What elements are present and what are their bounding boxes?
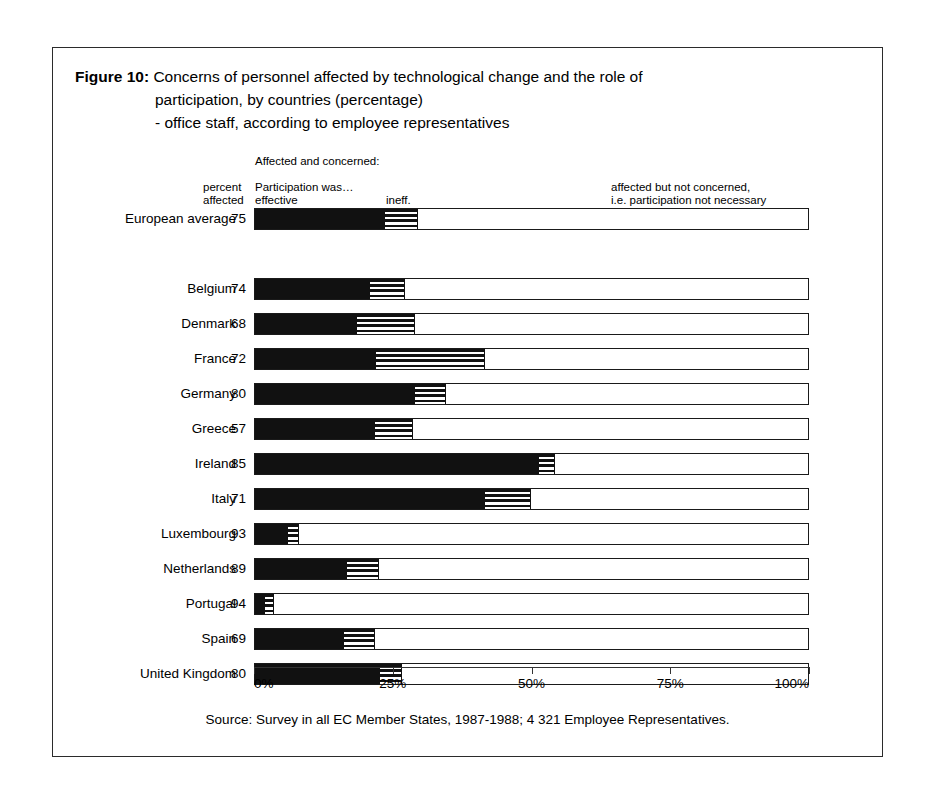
chart-row: Portugal94 bbox=[53, 593, 882, 615]
row-percent-affected: 75 bbox=[218, 211, 246, 226]
segment-not-concerned bbox=[413, 419, 808, 439]
x-axis-tick bbox=[254, 667, 255, 674]
segment-not-concerned bbox=[555, 454, 808, 474]
segment-ineffective bbox=[288, 524, 299, 544]
segment-ineffective bbox=[347, 559, 379, 579]
row-percent-affected: 94 bbox=[218, 596, 246, 611]
row-percent-affected: 72 bbox=[218, 351, 246, 366]
segment-not-concerned bbox=[446, 384, 808, 404]
stacked-bar bbox=[254, 208, 809, 230]
x-axis-tick bbox=[393, 667, 394, 674]
stacked-bar bbox=[254, 383, 809, 405]
segment-ineffective bbox=[265, 594, 274, 614]
segment-ineffective bbox=[376, 349, 485, 369]
segment-effective bbox=[255, 489, 485, 509]
segment-ineffective bbox=[370, 279, 405, 299]
stacked-bar bbox=[254, 418, 809, 440]
chart-row: Italy71 bbox=[53, 488, 882, 510]
row-percent-affected: 69 bbox=[218, 631, 246, 646]
segment-effective bbox=[255, 349, 376, 369]
segment-not-concerned bbox=[405, 279, 808, 299]
segment-effective bbox=[255, 454, 539, 474]
row-percent-affected: 93 bbox=[218, 526, 246, 541]
x-axis-tick-label: 75% bbox=[657, 676, 684, 691]
x-axis-tick-label: 0% bbox=[254, 676, 274, 691]
segment-not-concerned bbox=[415, 314, 808, 334]
stacked-bar bbox=[254, 628, 809, 650]
stacked-bar bbox=[254, 488, 809, 510]
x-axis-tick bbox=[809, 667, 810, 674]
segment-effective bbox=[255, 419, 375, 439]
segment-not-concerned bbox=[485, 349, 808, 369]
chart-row: European average75 bbox=[53, 208, 882, 230]
chart-row: Belgium74 bbox=[53, 278, 882, 300]
x-axis-tick-label: 25% bbox=[379, 676, 406, 691]
row-percent-affected: 74 bbox=[218, 281, 246, 296]
row-percent-affected: 89 bbox=[218, 561, 246, 576]
chart-row: Netherlands89 bbox=[53, 558, 882, 580]
segment-not-concerned bbox=[375, 629, 808, 649]
segment-effective bbox=[255, 629, 344, 649]
stacked-bar bbox=[254, 313, 809, 335]
x-axis-tick-label: 100% bbox=[774, 676, 809, 691]
chart-row: Germany80 bbox=[53, 383, 882, 405]
chart-row: Ireland85 bbox=[53, 453, 882, 475]
chart-row: Denmark68 bbox=[53, 313, 882, 335]
segment-effective bbox=[255, 524, 288, 544]
x-axis-tick bbox=[532, 667, 533, 674]
stacked-bar bbox=[254, 453, 809, 475]
segment-ineffective bbox=[344, 629, 375, 649]
x-axis-tick-label: 50% bbox=[518, 676, 545, 691]
stacked-bar bbox=[254, 348, 809, 370]
segment-effective bbox=[255, 209, 385, 229]
segment-ineffective bbox=[539, 454, 555, 474]
segment-not-concerned bbox=[299, 524, 808, 544]
figure-frame: Figure 10: Concerns of personnel affecte… bbox=[52, 47, 883, 757]
stacked-bar bbox=[254, 593, 809, 615]
stacked-bar bbox=[254, 523, 809, 545]
row-percent-affected: 85 bbox=[218, 456, 246, 471]
stacked-bar bbox=[254, 558, 809, 580]
row-percent-affected: 57 bbox=[218, 421, 246, 436]
segment-ineffective bbox=[375, 419, 413, 439]
segment-not-concerned bbox=[531, 489, 808, 509]
chart-row: Greece57 bbox=[53, 418, 882, 440]
segment-effective bbox=[255, 384, 415, 404]
source-note: Source: Survey in all EC Member States, … bbox=[53, 712, 882, 727]
segment-effective bbox=[255, 559, 347, 579]
stacked-bar bbox=[254, 278, 809, 300]
segment-not-concerned bbox=[418, 209, 808, 229]
segment-ineffective bbox=[385, 209, 418, 229]
segment-ineffective bbox=[357, 314, 415, 334]
row-percent-affected: 80 bbox=[218, 666, 246, 681]
chart-row: Luxembourg93 bbox=[53, 523, 882, 545]
row-percent-affected: 68 bbox=[218, 316, 246, 331]
row-percent-affected: 71 bbox=[218, 491, 246, 506]
chart-plot-area: European average75Belgium74Denmark68Fran… bbox=[53, 48, 882, 756]
segment-effective bbox=[255, 279, 370, 299]
chart-row: France72 bbox=[53, 348, 882, 370]
row-percent-affected: 80 bbox=[218, 386, 246, 401]
segment-ineffective bbox=[485, 489, 531, 509]
segment-effective bbox=[255, 594, 265, 614]
segment-not-concerned bbox=[379, 559, 808, 579]
chart-row: Spain69 bbox=[53, 628, 882, 650]
segment-not-concerned bbox=[274, 594, 808, 614]
segment-effective bbox=[255, 314, 357, 334]
x-axis: 0%25%50%75%100% bbox=[254, 667, 809, 701]
segment-ineffective bbox=[415, 384, 446, 404]
x-axis-tick bbox=[670, 667, 671, 674]
